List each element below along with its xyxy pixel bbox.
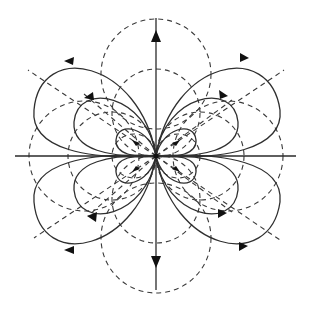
field-diagram: Field lines and equipotentials of a quad…: [0, 0, 310, 311]
arrow-top-left-outer-icon: [64, 57, 74, 65]
field-loop-top-left-mid: [74, 98, 156, 156]
arrow-top-right-mid-icon: [219, 90, 228, 99]
center-source-point: [154, 154, 159, 159]
arrow-bottom-left-outer-icon: [64, 246, 74, 254]
axis-arrow-up-icon: [151, 30, 161, 42]
arrow-top-right-outer-icon: [240, 53, 249, 62]
diagram-canvas: [0, 0, 310, 311]
arrow-inner-bottom-right-icon: [172, 166, 180, 172]
axis-arrow-down-icon: [151, 256, 161, 268]
arrow-bottom-left-mid-icon: [87, 212, 97, 222]
